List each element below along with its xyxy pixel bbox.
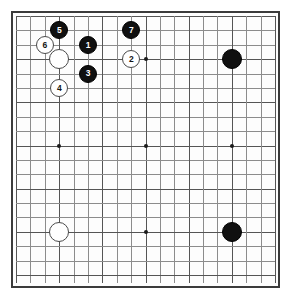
star-point bbox=[144, 230, 148, 234]
star-point bbox=[57, 144, 61, 148]
stone-white-handicap-lower-left[interactable] bbox=[49, 222, 69, 242]
grid-line-horizontal bbox=[16, 174, 275, 175]
grid-line-vertical bbox=[74, 16, 75, 283]
stone-move-number: 3 bbox=[86, 69, 90, 78]
star-point bbox=[144, 57, 148, 61]
grid-line-vertical bbox=[275, 16, 276, 283]
grid-line-vertical bbox=[30, 16, 31, 283]
stone-move-number: 4 bbox=[57, 84, 61, 93]
grid-line-vertical bbox=[146, 16, 147, 283]
diagram-title: Go game opening diagram bbox=[0, 0, 1, 1]
grid-line-horizontal bbox=[16, 275, 275, 276]
grid-line-vertical bbox=[16, 16, 17, 283]
stone-move-3[interactable]: 3 bbox=[79, 65, 97, 83]
grid-line-vertical bbox=[102, 16, 103, 283]
stone-black-handicap-upper-right[interactable] bbox=[222, 49, 242, 69]
grid-line-vertical bbox=[217, 16, 218, 283]
stone-move-number: 5 bbox=[57, 26, 61, 35]
stone-move-1[interactable]: 1 bbox=[79, 36, 97, 54]
grid-line-vertical bbox=[261, 16, 262, 283]
grid-line-vertical bbox=[203, 16, 204, 283]
star-point bbox=[230, 144, 234, 148]
grid-line-horizontal bbox=[16, 246, 275, 247]
stone-move-4[interactable]: 4 bbox=[50, 79, 68, 97]
stone-move-number: 6 bbox=[43, 41, 47, 50]
grid-line-vertical bbox=[174, 16, 175, 283]
grid-line-horizontal bbox=[16, 160, 275, 161]
grid-line-vertical bbox=[246, 16, 247, 283]
stone-black-handicap-lower-right[interactable] bbox=[222, 222, 242, 242]
star-point bbox=[144, 144, 148, 148]
grid-line-horizontal bbox=[16, 217, 275, 218]
grid-line-vertical bbox=[117, 16, 118, 283]
grid-line-horizontal bbox=[16, 189, 275, 190]
grid-line-vertical bbox=[45, 16, 46, 283]
stone-move-number: 2 bbox=[129, 55, 133, 64]
grid-line-horizontal bbox=[16, 261, 275, 262]
grid-line-vertical bbox=[189, 16, 190, 283]
grid-line-vertical bbox=[88, 16, 89, 283]
stone-move-number: 7 bbox=[129, 26, 133, 35]
grid-line-horizontal bbox=[16, 203, 275, 204]
grid-line-vertical bbox=[160, 16, 161, 283]
go-diagram: 5761234 Go game opening diagram bbox=[0, 0, 288, 297]
go-board[interactable]: 5761234 bbox=[11, 11, 280, 288]
stone-move-number: 1 bbox=[86, 41, 90, 50]
